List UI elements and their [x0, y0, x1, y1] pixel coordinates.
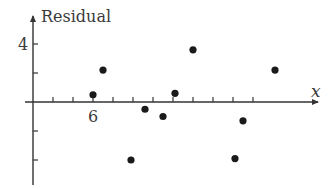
data-point — [189, 46, 196, 53]
data-point — [99, 67, 106, 74]
data-point — [159, 113, 166, 120]
data-point — [231, 155, 238, 162]
data-points — [89, 46, 278, 163]
data-point — [127, 156, 134, 163]
y-tick-label-4: 4 — [18, 35, 28, 54]
y-axis-label: Residual — [41, 7, 111, 26]
data-point — [171, 90, 178, 97]
x-axis-label: x — [311, 81, 321, 101]
data-point — [271, 67, 278, 74]
data-point — [239, 117, 246, 124]
residual-plot: Residual x 6 4 — [0, 0, 334, 189]
x-axis-ticks — [53, 97, 253, 102]
x-tick-label-6: 6 — [88, 107, 98, 126]
data-point — [141, 106, 148, 113]
data-point — [89, 91, 96, 98]
